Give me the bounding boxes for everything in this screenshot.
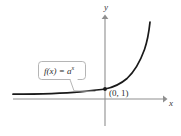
- callout-function-exponent: x: [72, 65, 75, 71]
- point-coordinate-label: (0, 1): [109, 89, 129, 98]
- callout-function-label: f(x) = ax: [44, 65, 74, 76]
- graph-canvas: [0, 0, 181, 136]
- x-axis-label: x: [169, 99, 173, 108]
- y-axis-arrowhead: [102, 15, 109, 20]
- callout-function-base: f(x) = a: [44, 66, 72, 76]
- x-axis-arrowhead: [163, 96, 168, 103]
- exponential-curve: [13, 22, 150, 94]
- point-marker: [103, 87, 107, 91]
- exponential-function-figure: y x (0, 1) f(x) = ax: [0, 0, 181, 136]
- callout-tail: [70, 80, 78, 90]
- y-axis-label: y: [104, 3, 108, 12]
